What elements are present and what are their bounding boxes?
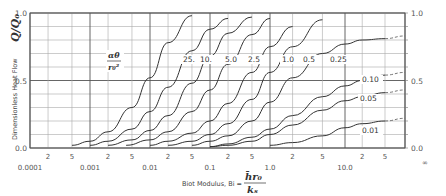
curve-2.5	[126, 18, 270, 145]
curve-dashed-0.25	[385, 36, 405, 39]
curve-label: 1.0	[282, 55, 294, 64]
x-major-tick: 0.01	[142, 164, 158, 172]
curves	[72, 16, 405, 147]
x-infinity-tick: ∞	[422, 159, 428, 167]
parameter-label-denominator: r₀²	[108, 62, 120, 72]
x-major-tick: 0.0001	[18, 164, 43, 172]
x-minor-tick: 5	[383, 153, 387, 161]
y-axis-symbol: Q/Q₀	[9, 14, 22, 42]
x-minor-tick: 2	[226, 153, 230, 161]
x-minor-tick: 5	[250, 153, 254, 161]
curve-0.10	[210, 75, 385, 147]
x-minor-tick: 2	[46, 153, 50, 161]
y-tick-right: 0.0	[411, 144, 423, 153]
parameter-label-numerator: αθ	[108, 50, 120, 60]
curve-label: 5.0	[225, 55, 237, 64]
curve-label: 0.5	[303, 55, 315, 64]
curve-label: 0.10	[362, 75, 379, 84]
curve-label: 25.	[183, 55, 195, 64]
y-tick-left: 0.0	[15, 144, 27, 153]
x-minor-tick: 5	[130, 153, 134, 161]
curve-dashed-0.10	[385, 72, 405, 75]
x-major-tick: 10.0	[337, 164, 353, 172]
curve-label: 10.	[200, 55, 212, 64]
y-tick-right: 0.5	[411, 77, 423, 86]
x-axis-label-numerator: h̄r₀	[245, 171, 263, 182]
x-major-tick: 0.1	[204, 164, 215, 172]
x-minor-tick: 5	[320, 153, 324, 161]
curve-5.0	[108, 17, 252, 145]
x-minor-tick: 2	[360, 153, 364, 161]
x-minor-tick: 5	[70, 153, 74, 161]
x-axis-label-denominator: kₛ	[247, 184, 258, 195]
curve-10.	[90, 18, 228, 145]
grid	[30, 13, 408, 148]
curve-dashed-0.01	[385, 118, 405, 121]
x-axis-label: Biot Modulus, Bi =	[182, 180, 242, 188]
y-tick-right: 1.0	[411, 9, 423, 18]
curve-label: 0.05	[360, 94, 377, 103]
x-minor-tick: 2	[106, 153, 110, 161]
x-major-tick: 1.0	[264, 164, 275, 172]
heat-flow-chart: 25.10.5.02.51.00.50.250.100.050.01αθr₀²1…	[0, 0, 446, 196]
y-axis-label: Dimensionless Heat Flow	[11, 58, 19, 140]
x-major-tick: 0.001	[80, 164, 100, 172]
curve-label: 0.01	[362, 126, 379, 135]
x-minor-tick: 2	[290, 153, 294, 161]
curve-label: 2.5	[248, 55, 260, 64]
curve-label: 0.25	[330, 55, 347, 64]
x-minor-tick: 5	[190, 153, 194, 161]
x-minor-tick: 2	[166, 153, 170, 161]
curve-dashed-0.05	[385, 90, 405, 93]
